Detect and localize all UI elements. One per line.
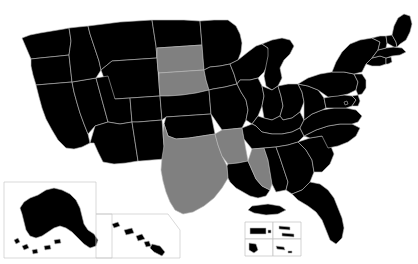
state-OR[interactable] bbox=[31, 55, 72, 85]
state-DC[interactable] bbox=[344, 101, 348, 105]
map-svg bbox=[0, 0, 418, 264]
state-CO[interactable] bbox=[130, 96, 162, 122]
state-NM[interactable] bbox=[132, 120, 165, 161]
state-SD[interactable] bbox=[157, 45, 204, 73]
us-choropleth-map bbox=[0, 0, 418, 264]
